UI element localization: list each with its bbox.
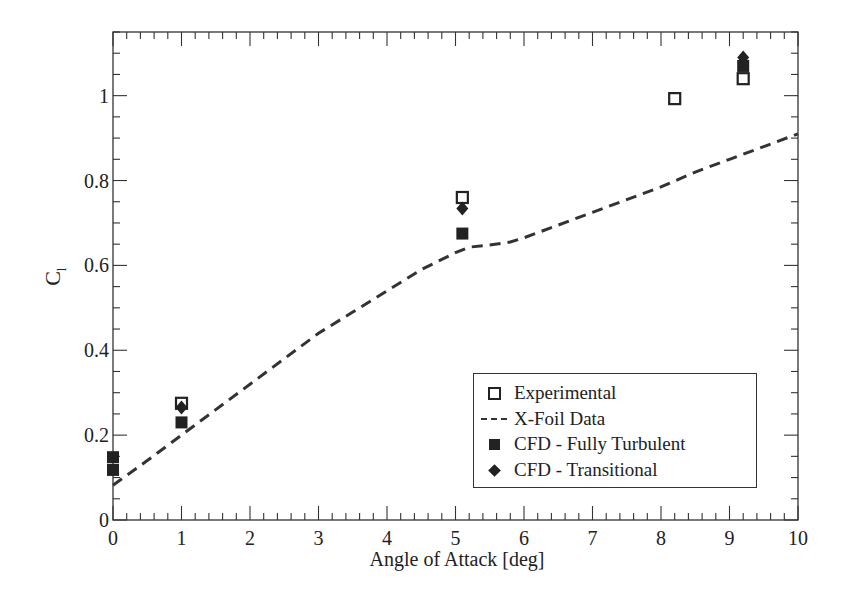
x-tick-label: 1: [177, 527, 187, 549]
y-tick-label: 0.6: [84, 254, 109, 276]
experimental-marker: [457, 192, 468, 203]
x-tick-label: 7: [588, 527, 598, 549]
cfd-fully-turbulent-marker: [176, 416, 188, 428]
legend-label: X-Foil Data: [514, 408, 605, 430]
y-tick-label: 0.4: [84, 339, 109, 361]
legend-label: CFD - Transitional: [514, 459, 658, 481]
x-tick-label: 8: [656, 527, 666, 549]
chart-plot: 01234567891000.20.40.60.81: [0, 0, 848, 601]
legend-label: CFD - Fully Turbulent: [514, 433, 686, 455]
x-axis-label-container: Angle of Attack [deg]: [0, 548, 848, 571]
legend-item-xfoil: X-Foil Data: [474, 406, 605, 432]
legend-item-cfd-fully-turbulent: CFD - Fully Turbulent: [474, 431, 686, 457]
legend-item-cfd-transitional: CFD - Transitional: [474, 457, 658, 483]
y-tick-label: 1: [99, 85, 109, 107]
experimental-marker: [738, 73, 749, 84]
x-tick-label: 5: [451, 527, 461, 549]
dashed-line-icon: [481, 418, 507, 420]
y-tick-label: 0.2: [84, 424, 109, 446]
x-tick-label: 4: [382, 527, 392, 549]
cfd-fully-turbulent-marker: [107, 451, 119, 463]
x-tick-label: 3: [314, 527, 324, 549]
x-tick-label: 0: [108, 527, 118, 549]
y-axis-label-main: C: [40, 271, 65, 286]
y-tick-label: 0: [99, 509, 109, 531]
open-square-icon: [488, 387, 501, 400]
y-axis-label-sub: l: [54, 268, 69, 272]
legend-item-experimental: Experimental: [474, 380, 616, 406]
x-tick-label: 6: [519, 527, 529, 549]
cfd-fully-turbulent-marker: [107, 464, 119, 476]
x-tick-label: 9: [725, 527, 735, 549]
experimental-marker: [669, 93, 680, 104]
cfd-fully-turbulent-marker: [456, 228, 468, 240]
legend: Experimental X-Foil Data CFD - Fully Tur…: [473, 373, 757, 488]
legend-label: Experimental: [514, 382, 616, 404]
y-tick-label: 0.8: [84, 170, 109, 192]
filled-diamond-icon: [488, 464, 501, 477]
x-axis-label: Angle of Attack [deg]: [370, 548, 545, 570]
x-tick-label: 10: [788, 527, 808, 549]
y-axis-label: Cl: [40, 262, 69, 292]
x-tick-label: 2: [245, 527, 255, 549]
filled-square-icon: [489, 439, 500, 450]
